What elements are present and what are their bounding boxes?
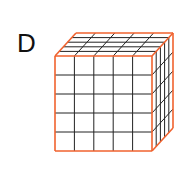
cube-diagram xyxy=(0,0,175,174)
